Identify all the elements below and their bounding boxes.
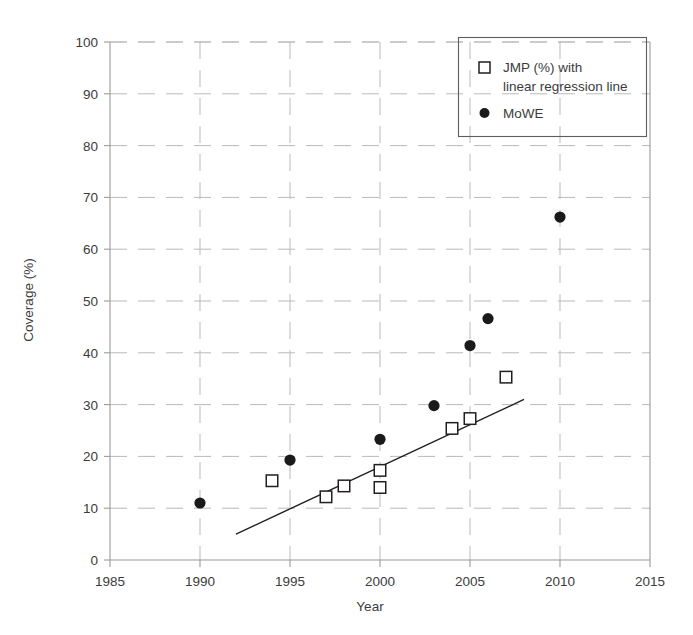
legend-marker-filled-circle	[480, 108, 490, 118]
y-tick-label: 60	[83, 242, 98, 257]
x-tick-label: 2015	[635, 574, 665, 589]
legend-marker-open-square	[479, 62, 490, 73]
chart-legend: JMP (%) with linear regression line MoWE	[459, 38, 647, 137]
scatter-plot: 1985199019952000200520102015 01020304050…	[0, 0, 693, 635]
data-point-mowe	[284, 454, 295, 465]
x-tick-label: 2000	[365, 574, 395, 589]
data-point-jmp	[464, 413, 476, 425]
y-tick-label: 100	[75, 35, 98, 50]
y-tick-label: 90	[83, 87, 98, 102]
x-tick-label: 2005	[455, 574, 485, 589]
x-tick-label: 1990	[185, 574, 215, 589]
y-tick-label: 0	[90, 553, 98, 568]
y-axis-title: Coverage (%)	[21, 258, 36, 341]
data-point-mowe	[464, 340, 475, 351]
chart-figure: 1985199019952000200520102015 01020304050…	[0, 0, 693, 635]
y-axis-ticks: 0102030405060708090100	[75, 35, 110, 568]
x-tick-label: 1985	[95, 574, 125, 589]
data-point-jmp	[320, 491, 332, 503]
data-point-jmp	[374, 482, 386, 494]
y-tick-label: 30	[83, 398, 98, 413]
y-tick-label: 20	[83, 449, 98, 464]
data-point-jmp	[338, 480, 350, 492]
data-point-jmp	[266, 475, 278, 487]
data-point-jmp	[374, 465, 386, 477]
y-tick-label: 10	[83, 501, 98, 516]
data-point-jmp	[446, 423, 458, 435]
data-point-mowe	[428, 400, 439, 411]
legend-label-mowe: MoWE	[503, 106, 544, 121]
y-tick-label: 50	[83, 294, 98, 309]
y-tick-label: 70	[83, 190, 98, 205]
legend-label-jmp-line2: linear regression line	[503, 79, 628, 94]
data-point-mowe	[554, 211, 565, 222]
data-point-mowe	[374, 434, 385, 445]
legend-label-jmp-line1: JMP (%) with	[503, 60, 582, 75]
series-jmp-points	[266, 371, 512, 502]
x-tick-label: 2010	[545, 574, 575, 589]
data-point-mowe	[194, 497, 205, 508]
x-axis-title: Year	[356, 599, 384, 614]
y-tick-label: 80	[83, 139, 98, 154]
x-axis-ticks: 1985199019952000200520102015	[95, 560, 665, 589]
x-tick-label: 1995	[275, 574, 305, 589]
data-point-mowe	[482, 313, 493, 324]
data-point-jmp	[500, 371, 512, 383]
y-tick-label: 40	[83, 346, 98, 361]
